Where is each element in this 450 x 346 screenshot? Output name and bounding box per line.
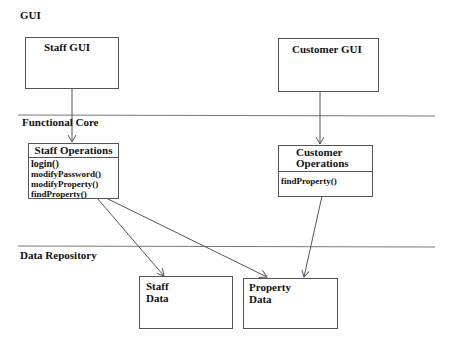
customer-operations-title-line2: Operations [296, 158, 372, 169]
arrow-customerops-to-propertydata [304, 196, 322, 277]
staff-data-box: Staff Data [139, 276, 233, 329]
staff-operations-methods: login() modifyPassword() modifyProperty(… [29, 158, 118, 199]
method-find-property: findProperty() [31, 189, 118, 199]
customer-operations-title: Customer Operations [279, 146, 372, 172]
customer-operations-box: Customer Operations findProperty() [278, 145, 373, 197]
layer-label-functional-core: Functional Core [22, 116, 99, 128]
staff-operations-title: Staff Operations [29, 144, 118, 158]
staff-data-title-line1: Staff [146, 280, 232, 292]
customer-operations-methods: findProperty() [279, 172, 372, 186]
property-data-box: Property Data [243, 278, 338, 329]
customer-gui-title: Customer GUI [279, 39, 378, 55]
property-data-title: Property Data [244, 279, 337, 305]
method-find-property: findProperty() [281, 176, 372, 186]
staff-data-title: Staff Data [140, 277, 232, 304]
property-data-title-line2: Data [249, 293, 337, 305]
staff-operations-box: Staff Operations login() modifyPassword(… [28, 143, 119, 199]
layer-divider-2 [18, 246, 435, 247]
customer-gui-box: Customer GUI [278, 38, 379, 92]
staff-gui-box: Staff GUI [25, 37, 119, 89]
arrow-staffops-to-propertydata [106, 198, 267, 277]
staff-gui-title: Staff GUI [26, 38, 118, 53]
method-modify-password: modifyPassword() [31, 169, 118, 179]
method-login: login() [31, 159, 118, 169]
method-modify-property: modifyProperty() [31, 179, 118, 189]
property-data-title-line1: Property [249, 281, 337, 293]
layer-label-gui: GUI [20, 9, 41, 21]
staff-data-title-line2: Data [146, 292, 232, 304]
layer-label-data-repository: Data Repository [20, 249, 97, 261]
